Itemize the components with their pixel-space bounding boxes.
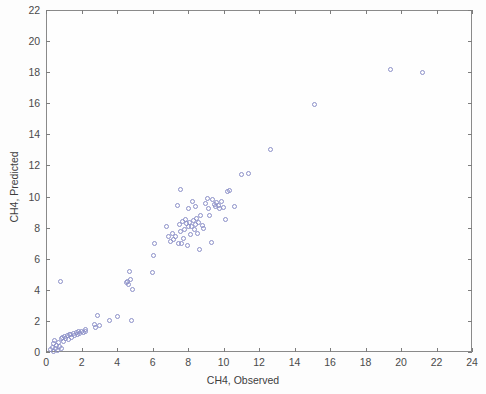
x-axis-tick-top [401, 10, 402, 14]
data-point-marker [195, 231, 200, 236]
y-axis-tick-label: 8 [34, 222, 40, 234]
x-axis-tick [366, 348, 367, 352]
x-axis-tick-top [366, 10, 367, 14]
x-axis-title: CH4, Observed [0, 374, 486, 386]
data-point-marker [97, 323, 102, 328]
y-axis-tick-right [468, 41, 472, 42]
data-point-marker [232, 204, 237, 209]
y-axis-tick-right [468, 228, 472, 229]
x-axis-tick-top [153, 10, 154, 14]
x-axis-tick [153, 348, 154, 352]
y-axis-tick [46, 10, 50, 11]
x-axis-tick-label: 8 [185, 356, 191, 368]
x-axis-tick-top [224, 10, 225, 14]
plot-area [46, 10, 472, 352]
y-axis-tick-label: 12 [29, 159, 40, 171]
data-point-marker [126, 282, 131, 287]
y-axis-tick-right [468, 290, 472, 291]
x-axis-tick [188, 348, 189, 352]
y-axis-tick [46, 134, 50, 135]
y-axis-tick [46, 228, 50, 229]
y-axis-tick [46, 197, 50, 198]
data-point-marker [206, 206, 211, 211]
data-point-marker [95, 313, 100, 318]
y-axis-tick-label: 22 [29, 4, 40, 16]
x-axis-tick [437, 348, 438, 352]
data-point-marker [223, 217, 228, 222]
x-axis-tick-label: 4 [114, 356, 120, 368]
x-axis-tick [295, 348, 296, 352]
data-point-marker [130, 287, 135, 292]
x-axis-tick-label: 14 [289, 356, 300, 368]
y-axis-tick-label: 16 [29, 97, 40, 109]
x-axis-tick-top [82, 10, 83, 14]
data-point-marker [197, 247, 202, 252]
y-axis-tick-right [468, 321, 472, 322]
x-axis-tick-label: 18 [360, 356, 371, 368]
y-axis-tick-right [468, 197, 472, 198]
y-axis-tick [46, 72, 50, 73]
y-axis-tick [46, 321, 50, 322]
x-axis-tick [472, 348, 473, 352]
data-point-marker [205, 196, 210, 201]
x-axis-tick-label: 24 [466, 356, 477, 368]
data-point-marker [221, 205, 226, 210]
y-axis-tick-right [468, 134, 472, 135]
y-axis-tick [46, 165, 50, 166]
x-axis-tick-top [259, 10, 260, 14]
y-axis-tick-label: 14 [29, 128, 40, 140]
data-point-marker [246, 171, 251, 176]
data-point-marker [209, 240, 214, 245]
y-axis-tick [46, 103, 50, 104]
data-point-marker [129, 318, 134, 323]
y-axis-tick-label: 0 [34, 346, 40, 358]
x-axis-tick-label: 2 [79, 356, 85, 368]
y-axis-tick [46, 290, 50, 291]
y-axis-tick [46, 352, 50, 353]
y-axis-tick [46, 41, 50, 42]
x-axis-tick-label: 0 [43, 356, 49, 368]
data-point-marker [268, 147, 273, 152]
scatter-chart-figure: 0246810121416182022240246810121416182022… [0, 0, 486, 394]
data-point-marker [58, 279, 63, 284]
x-axis-tick-label: 22 [431, 356, 442, 368]
y-axis-tick-label: 6 [34, 253, 40, 265]
y-axis-tick-right [468, 72, 472, 73]
y-axis-title: CH4, Predicted [8, 117, 20, 257]
x-axis-tick-label: 6 [150, 356, 156, 368]
x-axis-tick [259, 348, 260, 352]
data-point-marker [164, 224, 169, 229]
y-axis-tick-right [468, 259, 472, 260]
x-axis-tick [401, 348, 402, 352]
x-axis-tick-top [295, 10, 296, 14]
x-axis-tick-top [437, 10, 438, 14]
y-axis-tick-label: 4 [34, 284, 40, 296]
y-axis-tick-right [468, 352, 472, 353]
data-point-marker [185, 243, 190, 248]
y-axis-tick-label: 10 [29, 191, 40, 203]
y-axis-tick-label: 18 [29, 66, 40, 78]
data-point-marker [420, 70, 425, 75]
x-axis-tick-top [330, 10, 331, 14]
x-axis-tick-label: 12 [253, 356, 264, 368]
y-axis-tick [46, 259, 50, 260]
data-point-marker [190, 199, 195, 204]
x-axis-tick [224, 348, 225, 352]
data-point-marker [388, 67, 393, 72]
y-axis-tick-label: 2 [34, 315, 40, 327]
data-point-marker [115, 314, 120, 319]
y-axis-tick-right [468, 165, 472, 166]
x-axis-tick-top [117, 10, 118, 14]
y-axis-tick-right [468, 10, 472, 11]
y-axis-tick-right [468, 103, 472, 104]
x-axis-tick-label: 10 [218, 356, 229, 368]
x-axis-tick [330, 348, 331, 352]
x-axis-tick-label: 16 [324, 356, 335, 368]
y-axis-tick-label: 20 [29, 35, 40, 47]
x-axis-tick-top [472, 10, 473, 14]
x-axis-tick-top [188, 10, 189, 14]
x-axis-tick-label: 20 [395, 356, 406, 368]
x-axis-tick [82, 348, 83, 352]
data-point-marker [151, 253, 156, 258]
data-point-marker [312, 102, 317, 107]
